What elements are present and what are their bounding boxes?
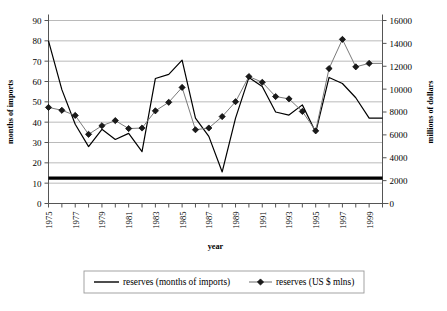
right-axis-tick-label: 2000 — [390, 176, 409, 186]
left-axis-tick-label: 40 — [33, 118, 43, 128]
legend-label-reserves-months-of-imports: reserves (months of imports) — [123, 277, 230, 288]
x-axis-tick-label: 1991 — [258, 212, 268, 229]
left-axis-tick-label: 30 — [33, 138, 43, 148]
x-axis-tick-label: 1989 — [231, 212, 241, 229]
chart-figure: 0102030405060708090020004000600080001000… — [0, 0, 447, 311]
x-axis-tick-label: 1983 — [151, 212, 161, 229]
left-axis-tick-label: 10 — [33, 179, 43, 189]
left-axis-tick-label: 0 — [37, 199, 42, 209]
x-axis-tick-label: 1977 — [71, 211, 81, 229]
x-axis-tick-label: 1987 — [204, 211, 214, 229]
chart-legend: reserves (months of imports)reserves (US… — [84, 271, 364, 293]
x-axis-title: year — [208, 242, 224, 251]
left-axis-tick-label: 60 — [33, 77, 43, 87]
left-axis-tick-label: 50 — [33, 97, 43, 107]
x-axis-tick-label: 1979 — [97, 212, 107, 229]
right-axis-tick-label: 16000 — [390, 16, 413, 26]
right-axis-tick-label: 0 — [390, 199, 395, 209]
x-axis-tick-label: 1981 — [124, 212, 134, 229]
x-axis-tick-label: 1975 — [44, 212, 54, 229]
x-axis-tick-label: 1997 — [338, 211, 348, 229]
legend-label-reserves-usd: reserves (US $ mlns) — [276, 277, 354, 288]
right-axis-tick-label: 14000 — [390, 39, 413, 49]
chart-background — [0, 0, 447, 311]
chart-svg: 0102030405060708090020004000600080001000… — [0, 0, 447, 311]
x-axis-tick-label: 1993 — [284, 212, 294, 229]
right-axis-tick-label: 4000 — [390, 153, 409, 163]
left-axis-tick-label: 70 — [33, 57, 43, 67]
right-axis-tick-label: 8000 — [390, 107, 409, 117]
left-axis-title: months of imports — [6, 80, 15, 144]
right-axis-title: millions of dollars — [426, 81, 435, 144]
left-axis-tick-label: 20 — [33, 158, 43, 168]
left-axis-tick-label: 90 — [33, 16, 43, 26]
x-axis-tick-label: 1985 — [178, 212, 188, 229]
x-axis-tick-label: 1995 — [311, 212, 321, 229]
right-axis-tick-label: 12000 — [390, 62, 413, 72]
right-axis-tick-label: 6000 — [390, 130, 409, 140]
right-axis-tick-label: 10000 — [390, 85, 413, 95]
left-axis-tick-label: 80 — [33, 36, 43, 46]
x-axis-tick-label: 1999 — [365, 212, 375, 229]
